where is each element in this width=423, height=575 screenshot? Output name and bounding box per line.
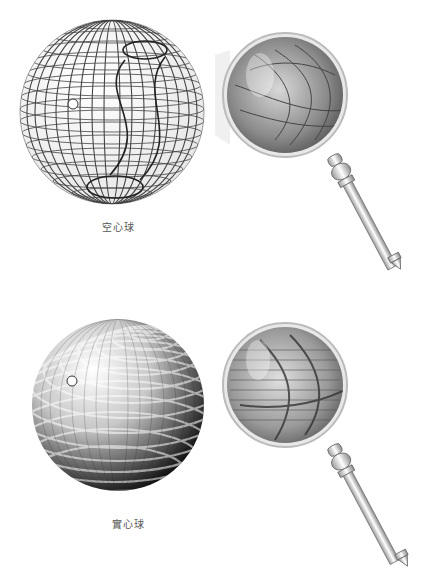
hollow-sphere-figure: 空心球 [0,0,423,290]
magnifying-glass-icon [215,15,415,275]
marker-dot [68,99,78,109]
hollow-sphere-label: 空心球 [102,219,135,234]
marker-dot [67,376,77,386]
solid-sphere-figure: 實心球 [0,290,423,575]
magnifying-glass-icon [220,310,420,575]
solid-sphere-label: 實心球 [112,516,145,531]
shaded-sphere-illustration [28,315,208,495]
wireframe-sphere-illustration [15,15,210,210]
